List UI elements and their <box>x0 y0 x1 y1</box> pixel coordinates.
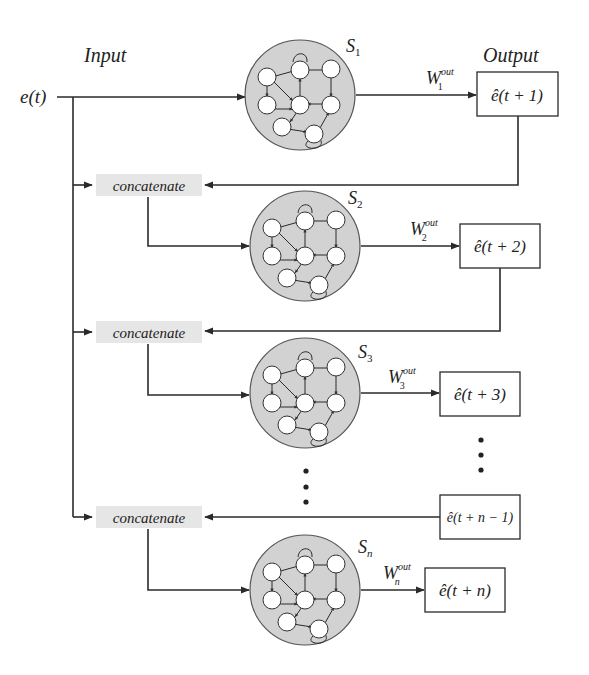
reservoir-label-s2: S2 <box>348 188 363 210</box>
concat-to-reservoir-arrow-3 <box>148 529 249 590</box>
stage-n-minus-1-output: ê(t + n − 1) <box>205 495 520 539</box>
readout-weight-n: Woutn <box>383 561 411 587</box>
readout-weight-3: Wout3 <box>388 365 416 391</box>
feedback-arrow-1 <box>205 116 518 185</box>
stage-n: Sn Woutn ê(t + n) <box>250 535 505 645</box>
readout-weight-2: Wout2 <box>410 217 438 243</box>
concat-to-reservoir-arrow-1 <box>148 197 249 246</box>
stage-2: S2 Wout2 ê(t + 2) <box>205 188 540 331</box>
concatenate-label-2: concatenate <box>113 325 186 341</box>
feedback-arrow-2 <box>205 268 500 331</box>
reservoir-sn <box>250 535 360 645</box>
output-value-1: ê(t + 1) <box>491 86 543 105</box>
output-value-n: ê(t + n) <box>439 581 491 600</box>
output-heading: Output <box>483 44 539 67</box>
readout-weight-1: Wout1 <box>426 66 454 92</box>
stage-3: S3 Wout3 ê(t + 3) <box>250 338 520 448</box>
concatenate-block-3: concatenate <box>73 506 249 590</box>
concatenate-label-1: concatenate <box>113 178 186 194</box>
output-value-3: ê(t + 3) <box>454 385 506 404</box>
input-heading: Input <box>83 44 127 67</box>
concatenate-label-3: concatenate <box>113 510 186 526</box>
ellipsis-right <box>478 437 483 472</box>
concat-to-reservoir-arrow-2 <box>148 344 249 395</box>
reservoir-label-s1: S1 <box>346 36 361 58</box>
reservoir-s2 <box>250 191 360 301</box>
ellipsis-middle <box>303 468 308 504</box>
esn-cascade-diagram: Input Output e(t) S1 Wout1 ê(t + 1) conc… <box>0 0 589 675</box>
reservoir-s3 <box>250 338 360 448</box>
output-value-n-minus-1: ê(t + n − 1) <box>447 510 514 526</box>
reservoir-s1 <box>245 40 355 150</box>
reservoir-label-s3: S3 <box>358 342 373 364</box>
output-value-2: ê(t + 2) <box>474 237 526 256</box>
input-signal-label: e(t) <box>20 86 46 108</box>
reservoir-label-sn: Sn <box>358 537 373 559</box>
concatenate-block-2: concatenate <box>73 321 249 395</box>
